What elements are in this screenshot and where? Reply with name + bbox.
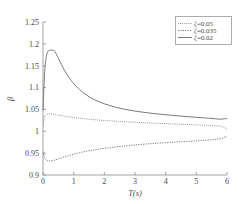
x-tick-label: 4 (164, 177, 168, 186)
x-tick-label: 1 (72, 177, 76, 186)
y-tick-label: 1.15 (25, 62, 39, 71)
legend-label-3: ζ=0.02 (194, 34, 214, 42)
axes-group (43, 22, 227, 175)
y-tick-label: 1 (35, 127, 39, 136)
figure-container: 0.90.9511.051.11.151.21.25 0123456 β T(s… (0, 0, 244, 204)
y-tick-label: 1.2 (29, 40, 39, 49)
y-tick-label: 1.25 (25, 18, 39, 27)
y-tick-label: 0.9 (29, 171, 39, 180)
y-axis-label: β (5, 96, 15, 102)
y-tick-label: 0.95 (25, 149, 39, 158)
series-line-2 (43, 136, 227, 161)
line-chart: 0.90.9511.051.11.151.21.25 0123456 β T(s… (0, 0, 244, 204)
series-line-1 (43, 114, 227, 129)
chart-page: 0.90.9511.051.11.151.21.25 0123456 β T(s… (0, 0, 244, 204)
x-tick-label: 5 (194, 177, 198, 186)
y-tick-label: 1.1 (29, 83, 39, 92)
data-curves (43, 50, 227, 161)
y-tick-label: 1.05 (25, 105, 39, 114)
x-tick-label: 0 (41, 177, 45, 186)
x-axis-ticks: 0123456 (41, 172, 229, 186)
legend: ζ=0.05ζ=0.035ζ=0.02 (176, 17, 232, 45)
x-tick-label: 3 (133, 177, 137, 186)
series-line-3 (43, 50, 227, 119)
x-axis-label: T(s) (128, 188, 142, 198)
x-tick-label: 2 (102, 177, 106, 186)
x-tick-label: 6 (225, 177, 229, 186)
